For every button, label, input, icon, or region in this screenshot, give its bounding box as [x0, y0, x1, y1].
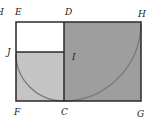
label-f: F: [14, 108, 20, 117]
label-e: E: [15, 8, 22, 17]
square-edij: [16, 22, 64, 52]
label-h: H: [138, 10, 146, 19]
label-cropped: H: [0, 8, 4, 17]
label-j: J: [7, 48, 11, 57]
label-i: I: [72, 53, 76, 62]
label-g: G: [137, 110, 144, 119]
golden-rectangle-diagram: H E D H J I F C G: [0, 0, 150, 122]
label-c: C: [61, 108, 68, 117]
region-jicf: [16, 52, 64, 101]
label-d: D: [65, 8, 72, 17]
